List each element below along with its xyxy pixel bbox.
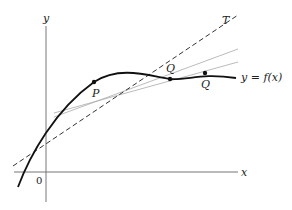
point-q-far-label: Q — [201, 78, 210, 91]
point-p-label: P — [91, 87, 100, 100]
curve-label: y = f(x) — [240, 71, 282, 84]
secant-line-far — [54, 62, 238, 113]
point-q-near — [168, 77, 172, 81]
x-axis-label: x — [241, 166, 248, 179]
secant-line-near — [54, 49, 238, 117]
origin-label: 0 — [36, 175, 42, 186]
point-q-near-label: Q — [166, 62, 175, 75]
y-axis-label: y — [42, 12, 50, 25]
point-q-far — [203, 71, 207, 75]
point-p — [92, 80, 96, 84]
tangent-secant-diagram: y x 0 T y = f(x) P Q Q — [0, 0, 292, 210]
